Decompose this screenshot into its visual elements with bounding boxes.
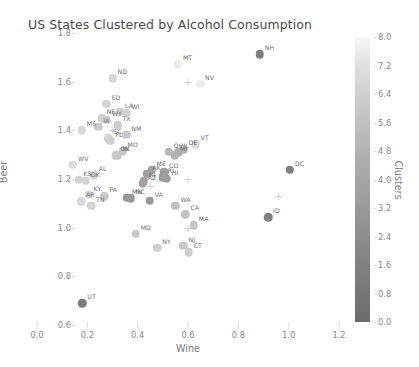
scatter-point-label: MD xyxy=(141,224,151,231)
colorbar-label: Clusters xyxy=(393,160,404,199)
scatter-point[interactable] xyxy=(106,137,115,146)
scatter-point-label: NY xyxy=(162,238,171,245)
scatter-point-label: WI xyxy=(132,103,140,110)
x-axis-label: Wine xyxy=(176,343,200,354)
scatter-point-label: CA xyxy=(190,204,199,211)
scatter-point[interactable] xyxy=(196,79,205,88)
colorbar xyxy=(355,37,370,322)
x-axis-tick: 0.0 xyxy=(30,330,43,340)
grid-crosshair-mark: + xyxy=(183,76,192,87)
scatter-point[interactable] xyxy=(145,197,154,206)
scatter-point-label: ID xyxy=(273,207,280,214)
colorbar-tick: -6.4 xyxy=(374,89,391,99)
scatter-point[interactable] xyxy=(171,151,180,160)
scatter-point[interactable] xyxy=(190,221,199,230)
x-axis-tick: 0.4 xyxy=(131,330,144,340)
scatter-point[interactable] xyxy=(78,126,87,135)
scatter-point-label: AR xyxy=(86,191,95,198)
scatter-point-label: AZ xyxy=(148,174,157,181)
grid-crosshair-mark: + xyxy=(183,174,192,185)
scatter-point[interactable] xyxy=(87,202,96,211)
scatter-point-label: HI xyxy=(172,169,179,176)
matplotlib-figure: US States Clustered by Alcohol Consumpti… xyxy=(0,0,419,367)
scatter-point-label: TX xyxy=(123,115,131,122)
scatter-point-label: MI xyxy=(180,145,187,152)
scatter-point[interactable] xyxy=(82,177,91,186)
colorbar-tick: -4.8 xyxy=(374,146,391,156)
scatter-point[interactable] xyxy=(264,213,273,222)
scatter-point-label: AK xyxy=(152,164,160,171)
scatter-point[interactable] xyxy=(77,197,86,206)
scatter-point-label: NM xyxy=(131,125,141,132)
colorbar-tick: -7.2 xyxy=(374,61,391,71)
scatter-point[interactable] xyxy=(185,248,194,257)
scatter-point[interactable] xyxy=(174,60,183,69)
scatter-point-label: MT xyxy=(183,54,192,61)
scatter-point-label: OK xyxy=(91,171,100,178)
x-axis-tick: 1.0 xyxy=(282,330,295,340)
scatter-point-label: FL xyxy=(115,131,122,138)
y-axis-label: Beer xyxy=(0,161,9,183)
scatter-point[interactable] xyxy=(122,130,131,139)
scatter-point-label: NH xyxy=(265,44,274,51)
scatter-point-label: ND xyxy=(118,68,128,75)
scatter-point-label: SD xyxy=(111,94,120,101)
scatter-point-label: WV xyxy=(78,155,88,162)
scatter-point[interactable] xyxy=(171,202,180,211)
scatter-point[interactable] xyxy=(126,194,135,203)
scatter-point-label: NC xyxy=(136,188,145,195)
scatter-point-label: MS xyxy=(87,120,96,127)
scatter-point-label: IN xyxy=(123,145,130,152)
colorbar-tick: -1.6 xyxy=(374,260,391,270)
scatter-point[interactable] xyxy=(163,174,172,183)
colorbar-gradient xyxy=(355,37,370,322)
scatter-point-label: WY xyxy=(112,110,122,117)
scatter-point-label: VT xyxy=(201,134,209,141)
scatter-point-label: WA xyxy=(180,196,190,203)
scatter-point-label: PA xyxy=(109,186,117,193)
scatter-point[interactable] xyxy=(181,210,190,219)
scatter-point-label: VA xyxy=(155,191,163,198)
scatter-point-label: UT xyxy=(87,293,95,300)
colorbar-tick: -0.0 xyxy=(374,317,391,327)
x-axis-tick: 0.2 xyxy=(81,330,94,340)
scatter-plot-area: ++++++NHMTNDNVSDLAWINEWYIATXMSNMSCFLVTMO… xyxy=(37,33,339,325)
colorbar-tick: -4.0 xyxy=(374,175,391,185)
scatter-point[interactable] xyxy=(131,230,140,239)
colorbar-tick: -0.8 xyxy=(374,289,391,299)
page-title: US States Clustered by Alcohol Consumpti… xyxy=(0,17,340,32)
scatter-point[interactable] xyxy=(102,99,111,108)
x-axis-tick: 1.2 xyxy=(332,330,345,340)
scatter-point[interactable] xyxy=(138,180,147,189)
colorbar-tick: -5.6 xyxy=(374,118,391,128)
scatter-point-label: IA xyxy=(103,117,109,124)
scatter-point-label: NV xyxy=(205,74,214,81)
x-axis-tick: 0.6 xyxy=(181,330,194,340)
colorbar-tick: -2.4 xyxy=(374,232,391,242)
scatter-point[interactable] xyxy=(69,161,78,170)
scatter-point-label: DC xyxy=(295,160,304,167)
scatter-point[interactable] xyxy=(113,151,122,160)
colorbar-tick: -8.0 xyxy=(374,32,391,42)
scatter-point-label: DE xyxy=(189,139,198,146)
scatter-point-label: MA xyxy=(199,215,209,222)
scatter-point[interactable] xyxy=(286,166,295,175)
grid-crosshair-mark: + xyxy=(274,191,283,202)
scatter-point[interactable] xyxy=(108,74,117,83)
x-axis-tick: 0.8 xyxy=(232,330,245,340)
scatter-point-label: TN xyxy=(96,196,105,203)
scatter-point-label: CT xyxy=(194,242,202,249)
colorbar-tick: -3.2 xyxy=(374,203,391,213)
scatter-point[interactable] xyxy=(153,243,162,252)
scatter-point[interactable] xyxy=(255,50,264,59)
scatter-point[interactable] xyxy=(78,299,87,308)
